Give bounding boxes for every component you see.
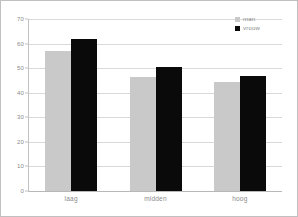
bar-chart-figure: 010203040506070 laagmiddenhoog manvrouw bbox=[0, 0, 298, 217]
bar-midden-man[interactable] bbox=[130, 77, 156, 191]
legend-swatch-vrouw-icon bbox=[235, 26, 240, 31]
bar-laag-vrouw[interactable] bbox=[71, 39, 97, 191]
bar-hoog-vrouw[interactable] bbox=[240, 76, 266, 191]
y-tick-label-70: 70 bbox=[17, 16, 24, 22]
y-tick-mark-30 bbox=[25, 117, 28, 118]
bar-midden-vrouw[interactable] bbox=[156, 67, 182, 191]
y-tick-label-60: 60 bbox=[17, 41, 24, 47]
y-tick-label-40: 40 bbox=[17, 90, 24, 96]
x-tick-label-laag: laag bbox=[65, 195, 78, 202]
legend-item-vrouw[interactable]: vrouw bbox=[235, 25, 260, 31]
y-tick-label-0: 0 bbox=[20, 188, 24, 194]
legend-label-man: man bbox=[243, 16, 255, 22]
x-axis-tick-labels: laagmiddenhoog bbox=[29, 195, 282, 211]
legend-label-vrouw: vrouw bbox=[243, 25, 260, 31]
y-tick-label-30: 30 bbox=[17, 114, 24, 120]
y-tick-mark-20 bbox=[25, 141, 28, 142]
plot-area bbox=[29, 19, 282, 191]
y-tick-mark-0 bbox=[25, 191, 28, 192]
y-axis-tick-labels: 010203040506070 bbox=[1, 19, 24, 191]
y-tick-mark-10 bbox=[25, 166, 28, 167]
y-tick-mark-60 bbox=[25, 43, 28, 44]
gridline-0 bbox=[29, 191, 282, 192]
legend-swatch-man-icon bbox=[235, 17, 240, 22]
bar-group-laag bbox=[45, 19, 97, 191]
x-tick-label-midden: midden bbox=[144, 195, 167, 202]
y-tick-mark-50 bbox=[25, 68, 28, 69]
legend-item-man[interactable]: man bbox=[235, 16, 260, 22]
bar-hoog-man[interactable] bbox=[214, 82, 240, 191]
y-tick-mark-40 bbox=[25, 92, 28, 93]
bar-laag-man[interactable] bbox=[45, 51, 71, 191]
chart-legend: manvrouw bbox=[235, 16, 260, 31]
y-tick-label-10: 10 bbox=[17, 163, 24, 169]
y-tick-label-50: 50 bbox=[17, 65, 24, 71]
y-tick-mark-70 bbox=[25, 19, 28, 20]
bar-group-hoog bbox=[214, 19, 266, 191]
x-tick-label-hoog: hoog bbox=[232, 195, 247, 202]
bar-group-midden bbox=[130, 19, 182, 191]
y-tick-label-20: 20 bbox=[17, 139, 24, 145]
